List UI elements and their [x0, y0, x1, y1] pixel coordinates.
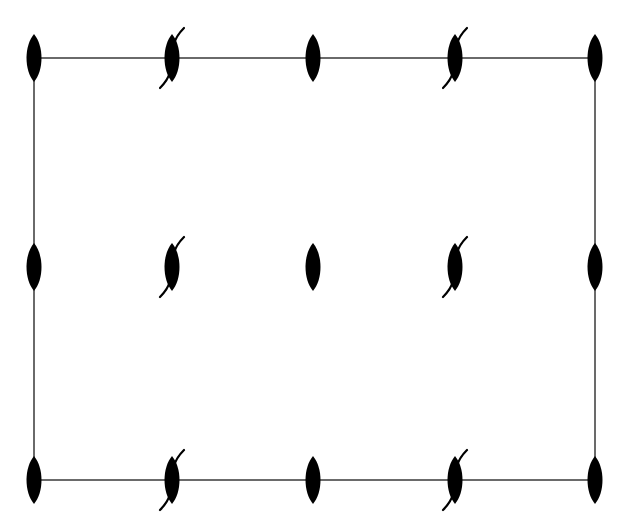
rotation-axis-icon — [306, 34, 321, 82]
rotation-axis-icon — [27, 34, 42, 82]
symmetry-diagram — [0, 0, 618, 528]
rotation-axis-icon — [27, 456, 42, 504]
rotation-axis-icon — [306, 243, 321, 291]
rotation-axis-icon — [27, 243, 42, 291]
screw-axis-icon — [160, 237, 184, 297]
rotation-axis-icon — [588, 243, 603, 291]
rotation-axis-icon — [306, 456, 321, 504]
rotation-axis-icon — [588, 34, 603, 82]
rotation-axis-icon — [588, 456, 603, 504]
unit-cell-canvas — [0, 0, 618, 528]
screw-axis-icon — [443, 237, 467, 297]
